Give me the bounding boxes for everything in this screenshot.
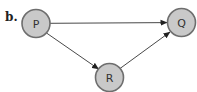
causal-diagram: b. P Q R (0, 0, 197, 92)
node-q: Q (168, 9, 196, 37)
edges (47, 23, 171, 69)
node-q-label: Q (177, 17, 186, 30)
node-r-label: R (106, 72, 114, 85)
node-p-label: P (33, 18, 40, 31)
node-p: P (22, 10, 50, 38)
edge-p-to-r (47, 33, 99, 69)
edge-p-to-q (50, 23, 167, 24)
panel-label: b. (5, 10, 18, 24)
edge-r-to-q (120, 32, 170, 69)
node-r: R (96, 64, 124, 92)
